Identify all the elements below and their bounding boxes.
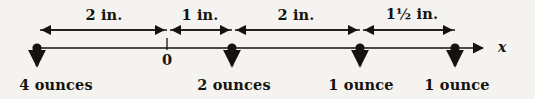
load-point-3 [450,43,459,66]
dimension-label-3: 1½ in. [386,7,439,22]
load-label-0: 4 ounces [19,78,93,93]
load-point-1 [227,43,236,66]
x-axis-label: x [498,40,506,54]
axis-line-group [37,38,483,50]
origin-label: 0 [162,53,172,68]
load-point-0 [32,43,41,66]
dimension-label-2: 2 in. [277,8,314,23]
dimension-label-0: 2 in. [85,8,122,23]
load-label-3: 1 ounce [424,78,489,93]
number-line-figure: 2 in. 1 in. 2 in. 1½ in. 0 x 4 ounces 2 … [0,0,535,99]
load-label-1: 2 ounces [197,78,271,93]
dimension-label-1: 1 in. [181,8,218,23]
load-points-group [32,43,459,66]
load-label-2: 1 ounce [328,78,393,93]
load-point-2 [355,43,364,66]
